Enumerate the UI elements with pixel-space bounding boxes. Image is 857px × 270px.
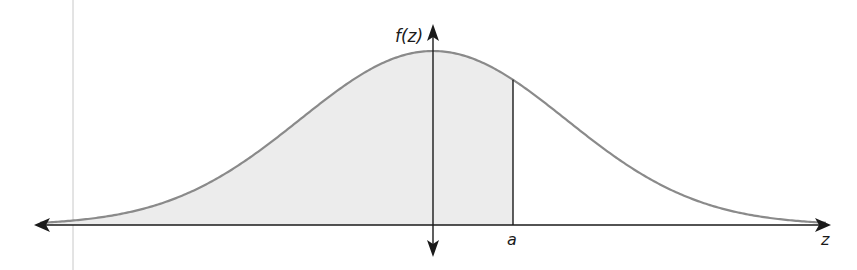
a-label: a bbox=[507, 230, 517, 249]
normal-curve-plot: f(z) a z bbox=[0, 0, 857, 270]
f-axis-label: f(z) bbox=[395, 26, 423, 46]
z-axis-label: z bbox=[820, 230, 830, 249]
normal-distribution-figure: f(z) a z bbox=[0, 0, 857, 270]
